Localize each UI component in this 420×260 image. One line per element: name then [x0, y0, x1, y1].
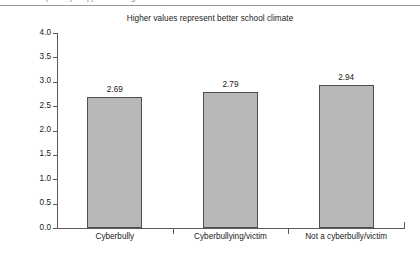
bar-value-label: 2.94 — [316, 73, 376, 82]
y-axis-tick: 4.0 — [57, 33, 61, 34]
bar[interactable] — [319, 85, 374, 228]
y-axis-tick-label: 3.0 — [40, 76, 51, 85]
y-axis-tick: 0.0 — [57, 228, 61, 229]
x-axis-right-tick — [404, 222, 405, 229]
y-axis-tick: 3.0 — [57, 82, 61, 83]
bar[interactable] — [87, 97, 142, 228]
y-axis-tick-mark — [53, 228, 57, 229]
y-axis-tick: 2.5 — [57, 106, 61, 107]
y-axis-tick-mark — [53, 82, 57, 83]
y-axis-tick: 0.5 — [57, 204, 61, 205]
y-axis-tick-label: 4.0 — [40, 28, 51, 37]
y-axis-tick: 3.5 — [57, 57, 61, 58]
bar[interactable] — [203, 92, 258, 228]
plot-area: 0.00.51.01.52.02.53.03.54.0 2.692.792.94 — [57, 33, 404, 228]
horizontal-rule — [0, 5, 420, 6]
y-axis-tick-label: 1.5 — [40, 149, 51, 158]
y-axis-tick-mark — [53, 131, 57, 132]
chart-title: Higher values represent better school cl… — [0, 14, 420, 23]
x-axis-line — [57, 228, 405, 229]
y-axis-tick-mark — [53, 179, 57, 180]
y-axis-tick-mark — [53, 57, 57, 58]
y-axis-tick: 1.5 — [57, 155, 61, 156]
y-axis-tick-label: 0.0 — [40, 223, 51, 232]
y-axis-tick-label: 3.5 — [40, 52, 51, 61]
y-axis-tick-mark — [53, 106, 57, 107]
clipped-heading-remnant: partially cropped heading text — [0, 0, 420, 4]
bar-value-label: 2.69 — [85, 85, 145, 94]
y-axis-tick-mark — [53, 33, 57, 34]
y-axis-tick-mark — [53, 155, 57, 156]
y-axis-tick-label: 1.0 — [40, 174, 51, 183]
y-axis-tick-label: 2.0 — [40, 125, 51, 134]
y-axis-tick: 1.0 — [57, 179, 61, 180]
y-axis-tick: 2.0 — [57, 131, 61, 132]
y-axis-tick-mark — [53, 204, 57, 205]
y-axis-tick-label: 0.5 — [40, 198, 51, 207]
x-axis-category-label: Not a cyberbully/victim — [276, 232, 416, 241]
bar-value-label: 2.79 — [201, 80, 261, 89]
y-axis-tick-label: 2.5 — [40, 101, 51, 110]
